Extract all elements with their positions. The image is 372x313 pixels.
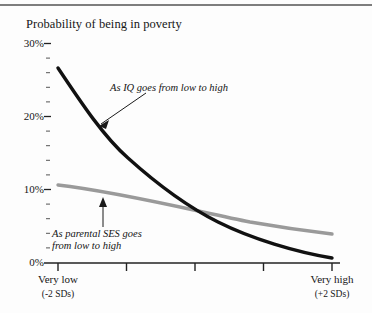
ses-annotation-label-line1: As parental SES goes [52, 228, 142, 241]
y-axis-major-ticks [44, 44, 51, 190]
iq-annotation-leader-arrow [99, 93, 146, 129]
x-axis-left-label: Very low [3, 273, 113, 286]
y-axis-minor-ticks [46, 58, 50, 248]
ses-annotation-label-line2: from low to high [52, 240, 121, 253]
x-axis-right-sublabel: (+2 SDs) [277, 288, 372, 301]
x-axis-ticks [58, 263, 332, 271]
ses-annotation-leader-arrow [99, 197, 107, 227]
poverty-probability-figure: Probability of being in poverty 30% 20% … [0, 0, 372, 313]
plot-area [0, 0, 372, 313]
x-axis-right-label: Very high [277, 273, 372, 286]
x-axis-left-sublabel: (-2 SDs) [3, 288, 113, 301]
iq-annotation-label: As IQ goes from low to high [110, 82, 228, 95]
